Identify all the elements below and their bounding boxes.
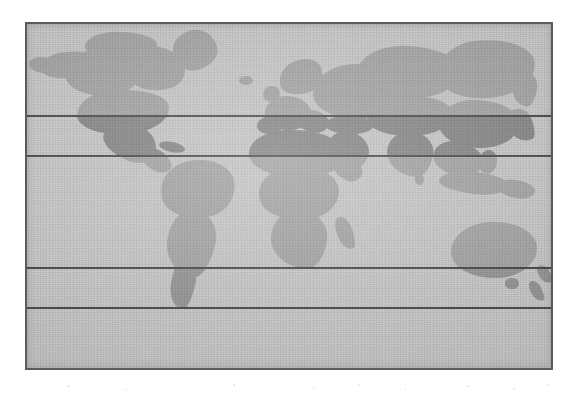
landmass-iceland	[239, 76, 253, 85]
landmass-sri-lanka	[415, 174, 424, 185]
landmass-new-zealand-s	[526, 279, 546, 304]
lat-line-3	[27, 267, 551, 269]
lat-line-1	[27, 115, 551, 117]
band-north-midlat	[27, 115, 551, 155]
land-layer-base	[27, 24, 551, 368]
landmass-madagascar	[332, 214, 359, 251]
scan-artifact-speckle	[0, 376, 571, 395]
land-layer-north-band	[27, 115, 551, 155]
page-canvas	[0, 0, 571, 395]
landmass-tasmania	[505, 278, 519, 289]
landmass-africa-south	[268, 207, 330, 271]
landmass-new-guinea	[496, 177, 537, 201]
land-layer-south-band	[27, 267, 551, 307]
lat-line-2	[27, 155, 551, 157]
world-map-figure	[25, 22, 553, 370]
band-south-midlat	[27, 267, 551, 307]
landmass-patagonia	[166, 267, 201, 307]
lat-line-4	[27, 307, 551, 309]
